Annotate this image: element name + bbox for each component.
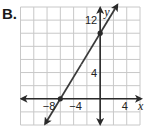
- plotted-point: [58, 96, 63, 101]
- x-tick-label: −8: [43, 100, 56, 112]
- x-tick-label: 4: [122, 100, 128, 112]
- x-axis-label: x: [137, 99, 144, 113]
- x-tick-label: −4: [69, 100, 82, 112]
- y-axis-label: y: [103, 5, 110, 19]
- coordinate-plane: −8−44412xy: [0, 0, 148, 134]
- y-tick-label: 12: [85, 14, 97, 26]
- y-tick-label: 4: [91, 67, 97, 79]
- graph-line-lower: [45, 64, 81, 123]
- tick-labels: −8−44412xy: [43, 5, 144, 113]
- plotted-point: [98, 31, 103, 36]
